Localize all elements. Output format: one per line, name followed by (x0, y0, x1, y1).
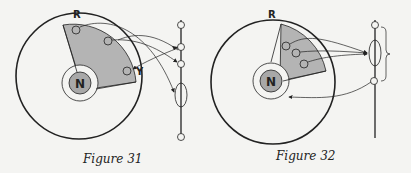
caption-figure-31: Figure 31 (83, 152, 143, 166)
particle (282, 42, 290, 50)
label-y: Y (135, 66, 144, 77)
particle (300, 60, 308, 68)
figure-31: N R Y (16, 9, 187, 141)
diagram-canvas: N R Y N R (0, 0, 411, 173)
axis-node (178, 134, 185, 141)
particle (104, 37, 112, 45)
nucleus-label: N (75, 77, 85, 91)
axis-node (371, 78, 378, 85)
axis-node (178, 44, 185, 51)
axis-node (372, 22, 379, 29)
nucleus-label: N (266, 75, 276, 89)
axis-node (178, 61, 185, 68)
figure-32: N R (211, 9, 390, 144)
particle (292, 49, 300, 57)
brace (381, 27, 390, 81)
label-r: R (73, 9, 81, 20)
particle (123, 67, 131, 75)
caption-figure-32: Figure 32 (276, 149, 336, 163)
arrow (289, 82, 371, 98)
label-r: R (268, 9, 276, 20)
particle (72, 26, 80, 34)
axis-node (178, 22, 185, 29)
